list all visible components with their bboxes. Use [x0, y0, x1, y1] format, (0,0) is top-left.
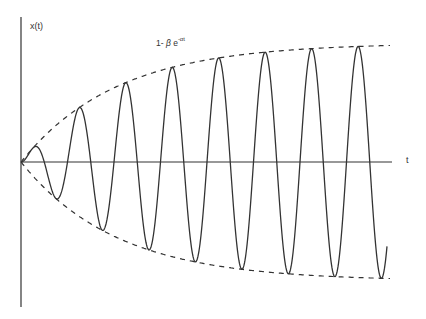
envelope-label-exponent: -αt	[178, 36, 185, 42]
y-axis-label: x(t)	[30, 21, 43, 31]
upper-envelope-curve	[21, 46, 390, 163]
envelope-label-base: e	[171, 38, 178, 48]
x-axis-label: t	[406, 155, 409, 165]
diagram-canvas	[0, 0, 426, 319]
envelope-label-prefix: 1-	[156, 38, 166, 48]
envelope-label: 1- β e-αt	[156, 37, 185, 48]
